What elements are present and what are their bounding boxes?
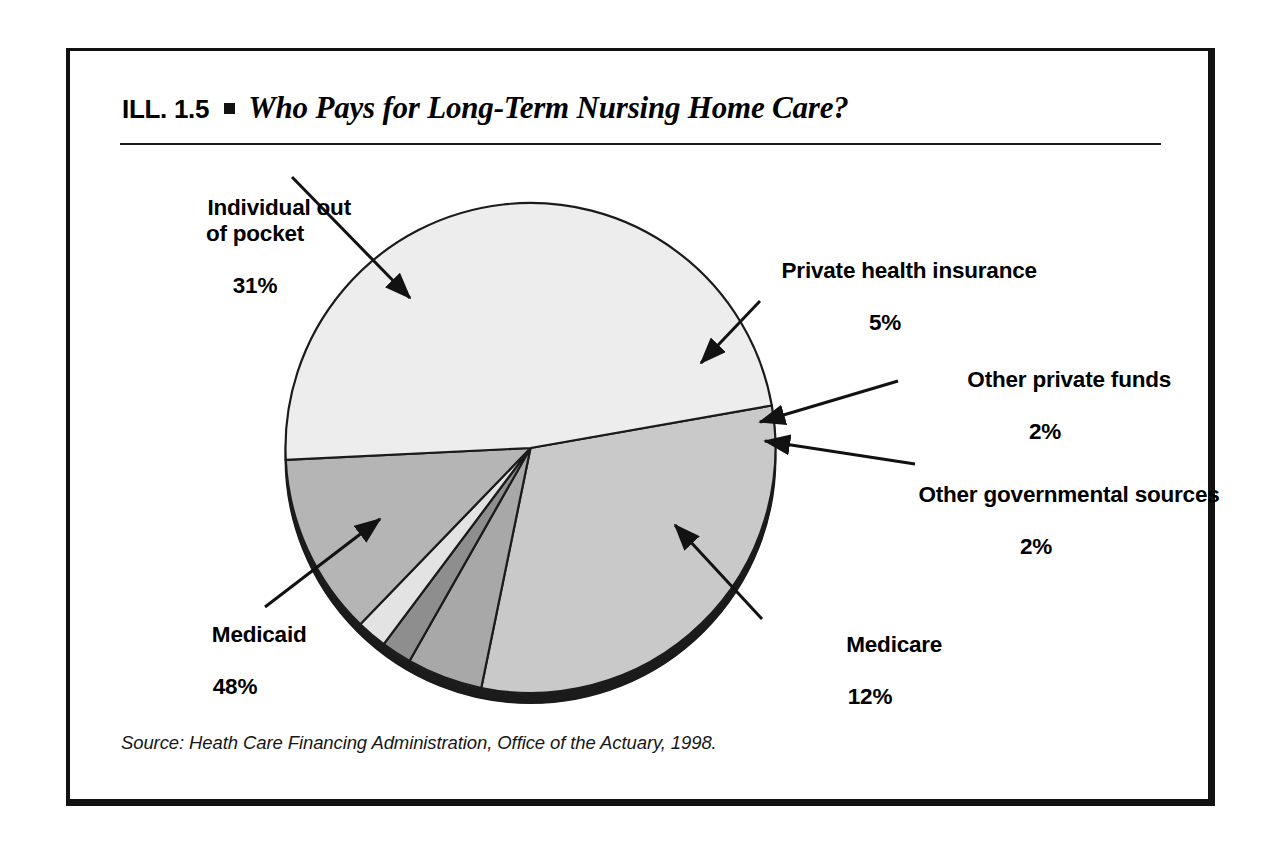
callout-medicaid-pct: 48% (125, 674, 345, 700)
callout-individual-pct: 31% (135, 273, 375, 299)
callout-medicaid-label: Medicaid (212, 622, 307, 647)
callout-private-label: Private health insurance (782, 258, 1037, 283)
callout-medicaid: Medicaid 48% (125, 596, 345, 753)
figure-frame: ILL. 1.5 Who Pays for Long-Term Nursing … (66, 48, 1215, 806)
callout-other-private-label: Other private funds (967, 367, 1171, 392)
figure-root: ILL. 1.5 Who Pays for Long-Term Nursing … (0, 0, 1278, 857)
callout-medicare-label: Medicare (846, 632, 942, 657)
pie-chart: Individual out of pocket 31% Private hea… (70, 51, 1219, 809)
callout-individual-label: Individual out of pocket (206, 195, 351, 246)
callout-private-pct: 5% (725, 310, 1045, 336)
callout-other-gov-label: Other governmental sources (918, 482, 1219, 507)
callout-medicare: Medicare 12% (760, 606, 980, 763)
callout-other-private-pct: 2% (895, 419, 1195, 445)
source-note: Source: Heath Care Financing Administrat… (121, 732, 717, 754)
callout-other-gov-pct: 2% (870, 534, 1202, 560)
callout-individual-out-of-pocket: Individual out of pocket 31% (135, 169, 375, 352)
callout-medicare-pct: 12% (760, 684, 980, 710)
callout-other-governmental-sources: Other governmental sources 2% (870, 456, 1202, 613)
